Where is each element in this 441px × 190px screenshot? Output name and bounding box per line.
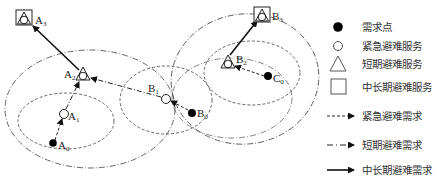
label-b1: B1 [148,82,159,96]
label-a0: A0 [58,139,70,153]
edge-a2-a3 [33,26,79,70]
legend-short-term-demand-label: 短期避难需求 [362,139,423,151]
legend: 需求点 紧急避难服务 短期避难服务 中长期避难服务 紧急避难需求 短期避难需求 … [327,21,433,176]
node-b2 [221,55,235,68]
legend-demand-point-icon [333,22,343,32]
legend-long-term-service-label: 中长期避难服务 [362,81,433,93]
label-b2: B2 [236,53,247,67]
node-b3 [254,7,270,22]
edge-c0-b2 [235,66,264,76]
node-a3 [16,10,32,25]
node-b1 [162,95,171,104]
label-a3: A3 [35,14,47,28]
legend-long-term-service-icon [331,79,346,94]
edge-a1-a2 [66,82,79,109]
label-b0: B0 [197,107,208,121]
legend-emergency-service-label: 紧急避难服务 [362,40,423,52]
node-b0 [188,109,196,117]
legend-long-term-demand-label: 中长期避难需求 [362,164,433,176]
edge-b0-b1 [171,101,188,110]
node-c0 [264,72,272,80]
legend-emergency-demand-label: 紧急避难需求 [362,110,423,122]
service-area-b2 [163,4,328,153]
evacuation-diagram: A3 A2 A1 A0 B1 B0 B2 B3 C0 需求点 紧急避难服务 短期… [0,0,441,190]
emergency-area-a1 [18,93,114,149]
legend-emergency-service-icon [334,42,343,51]
service-area-b2-outer [172,58,292,138]
service-area-a2 [5,50,175,168]
legend-demand-point-label: 需求点 [362,21,392,33]
edge-b2-b3 [230,21,257,55]
label-a1: A1 [68,110,80,124]
label-a2: A2 [64,68,76,82]
label-c0: C0 [273,72,284,86]
emergency-area-c [204,41,300,105]
edge-a0-a1 [55,119,62,140]
legend-short-term-service-icon [330,56,346,71]
node-a0 [49,139,57,147]
label-b3: B3 [272,10,283,24]
legend-short-term-service-label: 短期避难服务 [362,58,423,70]
